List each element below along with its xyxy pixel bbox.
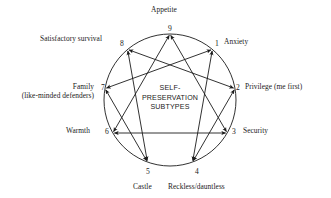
- enneagram-label-castle: Castle: [133, 183, 152, 192]
- center-title-line-1: SELF-: [133, 84, 207, 94]
- center-title-line-3: SUBTYPES: [133, 103, 207, 113]
- center-title-line-2: PRESERVATION: [133, 94, 207, 104]
- enneagram-label-privilege: Privilege (me first): [245, 83, 302, 92]
- enneagram-label-satisfactory-survival: Satisfactory survival: [40, 35, 102, 44]
- enneagram-label-anxiety: Anxiety: [224, 38, 248, 47]
- enneagram-number-6: 6: [102, 128, 112, 136]
- enneagram-number-4: 4: [192, 168, 202, 176]
- enneagram-number-8: 8: [117, 40, 127, 48]
- enneagram-label-family: Family (like-minded defenders): [2, 83, 94, 100]
- enneagram-number-9: 9: [165, 25, 175, 33]
- enneagram-number-1: 1: [212, 40, 222, 48]
- enneagram-label-security: Security: [243, 127, 268, 136]
- enneagram-number-3: 3: [229, 128, 239, 136]
- enneagram-label-family-line2: (like-minded defenders): [22, 91, 94, 100]
- enneagram-number-5: 5: [143, 168, 153, 176]
- enneagram-number-2: 2: [233, 84, 243, 92]
- enneagram-diagram: 9 1 2 3 4 5 6 7 8 Appetite Anxiety Privi…: [0, 0, 331, 198]
- enneagram-center-title: SELF- PRESERVATION SUBTYPES: [133, 84, 207, 113]
- enneagram-connection-2-8: [129, 50, 234, 88]
- enneagram-label-appetite: Appetite: [151, 6, 177, 15]
- enneagram-connection-7-1: [106, 50, 211, 88]
- enneagram-label-warmth: Warmth: [66, 127, 90, 136]
- enneagram-number-7: 7: [98, 84, 108, 92]
- enneagram-label-reckless-dauntless: Reckless/dauntless: [168, 183, 225, 192]
